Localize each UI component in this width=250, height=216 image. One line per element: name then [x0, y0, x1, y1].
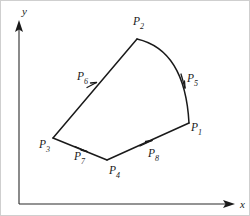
edge-label-p8-subscript: 8 [155, 154, 159, 163]
edge-label-p6-subscript: 6 [84, 77, 88, 86]
vertex-label-p3: P 3 [38, 138, 50, 154]
edge-label-p8: P 8 [147, 147, 159, 163]
direction-markers-group [75, 74, 185, 152]
edge-label-p7: P 7 [73, 150, 86, 166]
figure-canvas: y x [0, 0, 250, 216]
direction-marker-p8 [140, 141, 152, 147]
vertex-label-p3-subscript: 3 [45, 145, 50, 154]
x-axis-label: x [239, 198, 245, 210]
vertex-label-p4: P 4 [108, 164, 120, 180]
edge-p3-p2 [53, 39, 137, 138]
edge-label-p7-letter: P [73, 150, 81, 162]
vertex-label-p2-letter: P [132, 15, 140, 27]
edge-label-p8-letter: P [147, 147, 155, 159]
edge-label-p7-subscript: 7 [81, 157, 86, 166]
vertex-label-p3-letter: P [38, 138, 46, 150]
vertex-label-p1: P 1 [190, 121, 202, 137]
vertex-label-p1-subscript: 1 [198, 128, 202, 137]
vertex-label-p2: P 2 [132, 15, 144, 31]
vertex-labels-group: P 1 P 2 P 3 P 4 [38, 15, 202, 180]
vertex-label-p4-letter: P [108, 164, 116, 176]
shape-edges-group [53, 39, 189, 160]
vertex-label-p1-letter: P [190, 121, 198, 133]
vertex-label-p4-subscript: 4 [116, 171, 120, 180]
edge-label-p5-subscript: 5 [194, 79, 198, 88]
direction-marker-p6 [87, 83, 97, 88]
edge-label-p5-letter: P [186, 72, 194, 84]
edge-label-p6-letter: P [76, 70, 84, 82]
edge-label-p5: P 5 [186, 72, 198, 88]
edge-label-p6: P 6 [76, 70, 88, 86]
polygon-diagram: y x [1, 1, 250, 216]
vertex-label-p2-subscript: 2 [140, 22, 144, 31]
edge-p2-p1-curved [137, 39, 189, 123]
y-axis-label: y [21, 5, 27, 17]
axis-group: y x [15, 5, 245, 210]
